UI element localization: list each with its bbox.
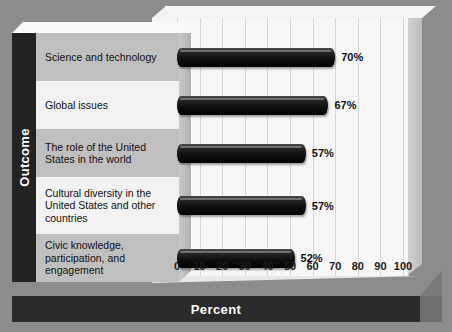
category-label: Global issues (45, 99, 108, 112)
x-tick-label: 100 (394, 260, 412, 272)
x-axis-title: Percent (12, 296, 420, 322)
category-row: Cultural diversity in the United States … (36, 177, 179, 234)
category-rows: Science and technologyGlobal issuesThe r… (36, 33, 179, 282)
label-panel-top-bevel (12, 22, 190, 33)
category-label-panel: Outcome Science and technologyGlobal iss… (12, 22, 190, 296)
x-tick-label: 30 (239, 260, 251, 272)
gridline (290, 18, 291, 276)
gridline (403, 18, 404, 276)
x-tick-label: 0 (174, 260, 180, 272)
x-tick-label: 40 (261, 260, 273, 272)
gridline (222, 18, 223, 276)
plot-area-block (152, 6, 452, 296)
category-label: Cultural diversity in the United States … (45, 187, 173, 225)
corner-bevel-right (420, 296, 442, 322)
gridline (380, 18, 381, 276)
category-row: Global issues (36, 81, 179, 129)
gridline (200, 18, 201, 276)
chart-canvas: Outcome Science and technologyGlobal iss… (0, 0, 452, 332)
x-tick-label: 20 (216, 260, 228, 272)
x-tick-label: 70 (329, 260, 341, 272)
x-tick-label: 90 (374, 260, 386, 272)
gridline (245, 18, 246, 276)
x-axis-ticks: 0102030405060708090100 (152, 258, 420, 280)
gridline (267, 18, 268, 276)
x-tick-label: 60 (306, 260, 318, 272)
gridline (313, 18, 314, 276)
x-tick-label: 10 (193, 260, 205, 272)
category-row: Science and technology (36, 33, 179, 81)
y-axis-title: Outcome (17, 128, 32, 186)
category-label: The role of the United States in the wor… (45, 141, 173, 166)
y-axis-title-band: Outcome (12, 33, 36, 282)
x-tick-label: 50 (284, 260, 296, 272)
category-label: Science and technology (45, 51, 157, 64)
gridline (358, 18, 359, 276)
label-panel-right-wall (179, 33, 191, 282)
gridline (335, 18, 336, 276)
category-row: The role of the United States in the wor… (36, 129, 179, 177)
x-tick-label: 80 (352, 260, 364, 272)
